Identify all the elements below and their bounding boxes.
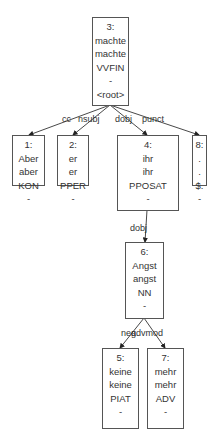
node-5-keine: 5: keine keine PIAT -: [102, 348, 139, 429]
node-feats: -: [119, 405, 122, 419]
node-form: keine: [109, 365, 132, 379]
node-index: 7:: [162, 351, 170, 365]
node-pos: PPER: [60, 179, 86, 193]
edge-label-punct: punct: [142, 114, 164, 124]
node-form: ihr: [143, 152, 154, 166]
node-feats: -: [164, 405, 167, 419]
node-1-aber: 1: Aber aber KON -: [12, 135, 45, 186]
node-form: er: [69, 152, 77, 166]
node-index: 6:: [141, 245, 149, 259]
node-form: Angst: [132, 259, 156, 273]
node-index: 3:: [107, 20, 115, 34]
edge-label-dobj-2: dobj: [130, 223, 147, 233]
node-lemma: .: [198, 165, 201, 179]
node-form: machte: [95, 34, 126, 48]
node-3-machte: 3: machte machte VVFIN - <root>: [92, 17, 129, 106]
node-feats: -: [109, 74, 112, 88]
edge-label-cc: cc: [62, 114, 71, 124]
node-index: 1:: [25, 138, 33, 152]
node-8-punct: 8: . . $. -: [192, 135, 207, 186]
edge-label-nsubj: nsubj: [78, 114, 100, 124]
node-form: .: [198, 152, 201, 166]
node-head: <root>: [97, 88, 124, 102]
node-pos: NN: [138, 286, 152, 300]
node-7-mehr: 7: mehr mehr ADV -: [147, 348, 184, 429]
node-lemma: aber: [19, 165, 38, 179]
node-lemma: keine: [109, 378, 132, 392]
node-lemma: ihr: [143, 165, 154, 179]
node-feats: -: [146, 192, 149, 206]
node-index: 8:: [196, 138, 204, 152]
node-lemma: machte: [95, 47, 126, 61]
node-pos: PIAT: [110, 392, 130, 406]
edge-label-dobj: dobj: [115, 114, 132, 124]
edge-label-advmod: advmod: [131, 328, 163, 338]
node-index: 4:: [144, 138, 152, 152]
node-form: mehr: [155, 365, 177, 379]
node-feats: -: [143, 299, 146, 313]
node-feats: -: [198, 192, 201, 206]
node-index: 2:: [69, 138, 77, 152]
node-4-ihr: 4: ihr ihr PPOSAT -: [117, 135, 179, 211]
node-lemma: er: [69, 165, 77, 179]
node-pos: PPOSAT: [129, 179, 167, 193]
node-6-angst: 6: Angst angst NN -: [125, 242, 164, 319]
node-pos: ADV: [156, 392, 176, 406]
node-2-er: 2: er er PPER -: [57, 135, 89, 186]
node-form: Aber: [18, 152, 38, 166]
node-index: 5:: [117, 351, 125, 365]
node-pos: KON: [18, 179, 39, 193]
node-lemma: mehr: [155, 378, 177, 392]
node-pos: VVFIN: [97, 61, 125, 75]
node-feats: -: [71, 192, 74, 206]
node-feats: -: [27, 192, 30, 206]
node-pos: $.: [196, 179, 204, 193]
node-lemma: angst: [133, 272, 156, 286]
